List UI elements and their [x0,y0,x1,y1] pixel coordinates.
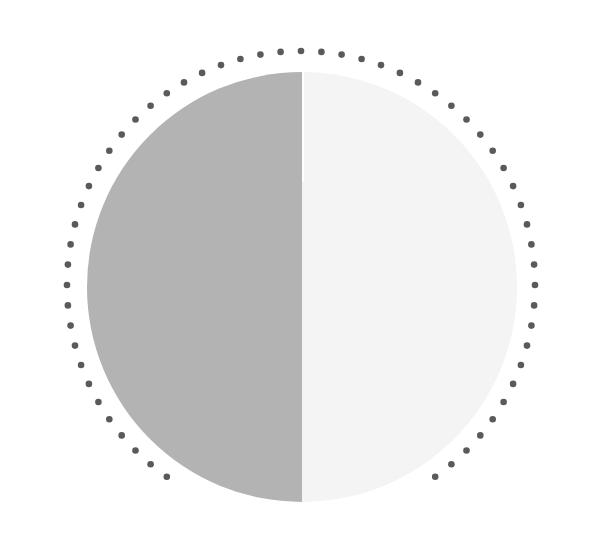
ring-dot [95,165,102,172]
ring-dot [64,282,71,289]
ring-dot [257,51,264,58]
ring-dot [531,261,538,268]
ring-dot [518,202,525,209]
ring-dot [218,62,225,69]
ring-dot [489,148,496,155]
ring-dot [106,416,113,423]
ring-dot [164,473,171,480]
ring-dot [132,447,139,454]
ring-dot [477,131,484,138]
ring-dot [298,48,305,55]
ring-dot [147,461,154,468]
ring-dot [132,116,139,123]
ring-dot [432,90,439,97]
ring-dot [510,381,517,388]
ring-dot [106,148,113,155]
ring-dot [65,261,72,268]
ring-dot [489,416,496,423]
ring-dot [181,79,188,86]
ring-dot [528,241,535,248]
ring-dot [524,342,531,349]
ring-dot [524,221,531,228]
ring-dot [118,432,125,439]
ring-dot [65,302,72,309]
ring-dot [397,70,404,77]
ring-dot [528,322,535,329]
ring-dot [415,79,422,86]
ring-dot [432,473,439,480]
right-half-segment [302,72,517,502]
ring-dot [237,56,244,63]
ring-dot [500,399,507,406]
ring-dot [118,131,125,138]
ring-dot [500,165,507,172]
seam-notch [302,72,304,182]
ring-dot [164,90,171,97]
ring-dot [477,432,484,439]
ring-dot [338,51,345,58]
ring-dot [358,56,365,63]
ring-dot [86,381,93,388]
ring-dot [199,70,206,77]
ring-dot [531,302,538,309]
ring-dot [277,49,284,56]
ring-dot [378,62,385,69]
ring-dot [147,102,154,109]
ring-dot [318,49,325,56]
ring-dot [67,322,74,329]
ring-dot [67,241,74,248]
ring-dot [78,362,85,369]
ring-dot [463,116,470,123]
ring-dot [448,102,455,109]
ring-dot [532,282,539,289]
ring-dot [463,447,470,454]
ring-dot [510,183,517,190]
ring-dot [72,221,79,228]
ring-dot [72,342,79,349]
ring-dot [86,183,93,190]
ring-dot [448,461,455,468]
ring-dot [518,362,525,369]
ring-dot [95,399,102,406]
half-circle-diagram [0,0,591,543]
ring-dot [78,202,85,209]
